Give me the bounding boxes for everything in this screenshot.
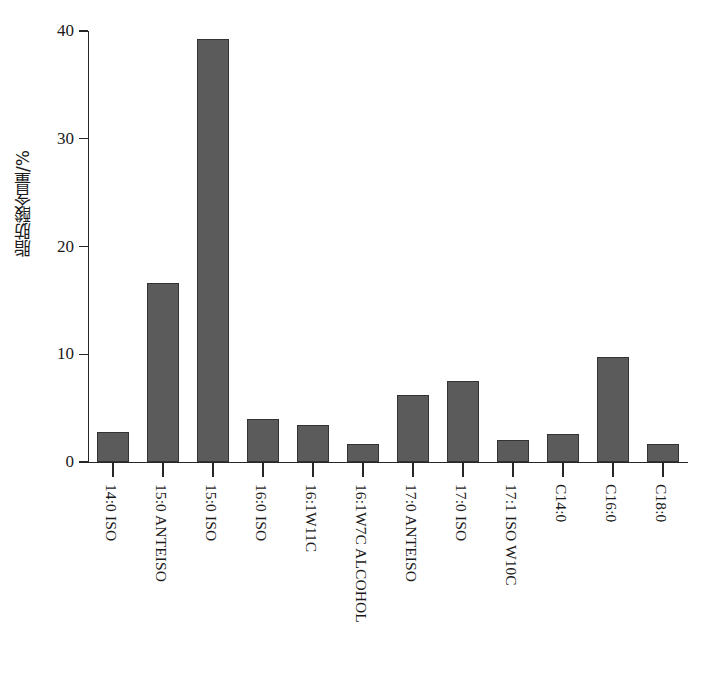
bar xyxy=(497,440,529,462)
y-axis-title: 脂肪酸含量/% xyxy=(14,150,40,257)
x-axis-category-label: 17:0 ANTEISO xyxy=(404,484,420,582)
x-axis-tick xyxy=(212,463,213,477)
y-axis-tick xyxy=(79,246,88,247)
x-axis-tick xyxy=(162,463,163,477)
bar xyxy=(397,395,429,462)
y-axis-tick-label: 0 xyxy=(40,453,74,470)
x-axis-tick xyxy=(462,463,463,477)
y-axis-tick xyxy=(79,461,88,462)
y-axis-tick-label-text: 0 xyxy=(40,453,74,470)
x-axis-tick xyxy=(312,463,313,477)
y-axis-tick-label-text: 10 xyxy=(40,345,74,362)
bar xyxy=(247,419,279,462)
y-axis-tick xyxy=(79,354,88,355)
x-axis-tick xyxy=(262,463,263,477)
x-axis-category-label: C18:0 xyxy=(654,484,670,522)
y-axis-line xyxy=(88,31,89,463)
y-axis-tick-label: 10 xyxy=(40,345,74,362)
bar xyxy=(297,425,329,462)
x-axis-line xyxy=(88,462,688,463)
x-axis-tick xyxy=(412,463,413,477)
bar xyxy=(647,444,679,462)
x-axis-category-label: 17:0 ISO xyxy=(454,484,470,541)
bar xyxy=(597,357,629,462)
bar xyxy=(147,283,179,462)
x-axis-tick xyxy=(562,463,563,477)
x-axis-category-label: 17:1 ISO W10C xyxy=(504,484,520,586)
x-axis-category-label: C16:0 xyxy=(604,484,620,522)
x-axis-tick xyxy=(612,463,613,477)
y-axis-tick xyxy=(79,138,88,139)
fatty-acid-bar-chart: 脂肪酸含量/% 010203040 14:0 ISO15:0 ANTEISO15… xyxy=(0,0,709,681)
x-axis-category-label: 15:0 ISO xyxy=(204,484,220,541)
x-axis-category-label: 16:1W11C xyxy=(304,484,320,552)
y-axis-tick-label-text: 40 xyxy=(40,22,74,39)
x-axis-category-label: 14:0 ISO xyxy=(104,484,120,541)
x-axis-category-label: 16:0 ISO xyxy=(254,484,270,541)
bar xyxy=(97,432,129,462)
x-axis-category-label: 15:0 ANTEISO xyxy=(154,484,170,582)
bar xyxy=(347,444,379,462)
x-axis-tick xyxy=(362,463,363,477)
x-axis-category-label: 16:1W7C ALCOHOL xyxy=(354,484,370,623)
bar xyxy=(447,381,479,462)
y-axis-tick-label: 40 xyxy=(40,22,74,39)
x-axis-category-label: C14:0 xyxy=(554,484,570,522)
x-axis-tick xyxy=(112,463,113,477)
y-axis-tick-label: 30 xyxy=(40,130,74,147)
y-axis-tick xyxy=(79,30,88,31)
x-axis-tick xyxy=(662,463,663,477)
bar xyxy=(547,434,579,462)
y-axis-tick-label-text: 20 xyxy=(40,238,74,255)
x-axis-tick xyxy=(512,463,513,477)
y-axis-tick-label-text: 30 xyxy=(40,130,74,147)
y-axis-tick-label: 20 xyxy=(40,238,74,255)
bar xyxy=(197,39,229,462)
